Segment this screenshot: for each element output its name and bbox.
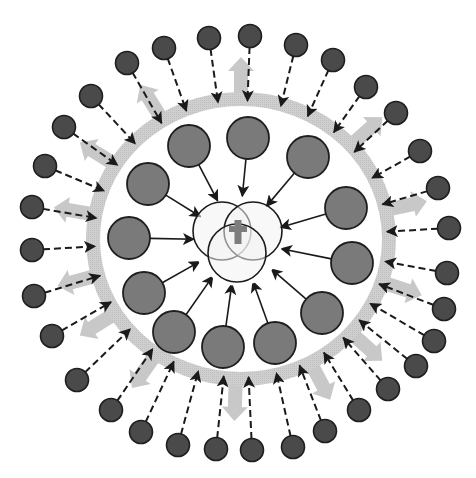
solid-arrow <box>186 276 213 315</box>
dashed-arrow <box>181 371 198 434</box>
middle-circle <box>325 187 367 229</box>
dashed-arrow <box>370 303 424 335</box>
outer-dot <box>21 196 44 219</box>
outer-dot <box>34 155 57 178</box>
outer-dot <box>239 25 262 48</box>
outer-dot <box>427 177 450 200</box>
solid-arrow <box>280 214 326 228</box>
dashed-arrow <box>168 58 187 111</box>
outer-dot <box>322 49 345 72</box>
outer-dot <box>436 262 459 285</box>
outer-dot <box>241 439 264 462</box>
outer-dot <box>53 116 76 139</box>
outer-dot <box>23 285 46 308</box>
solid-arrow <box>242 159 246 196</box>
outer-dot <box>385 102 408 125</box>
middle-circle <box>254 322 296 364</box>
middle-circle <box>202 326 244 368</box>
middle-circle <box>168 125 210 167</box>
middle-circle <box>108 217 150 259</box>
outer-dot <box>167 434 190 457</box>
outer-dot <box>285 34 308 57</box>
solid-arrow <box>150 238 194 239</box>
outer-dot <box>198 27 221 50</box>
dashed-arrow <box>98 104 135 144</box>
diagram-canvas <box>0 0 476 478</box>
dashed-arrow <box>276 373 290 436</box>
outer-dot <box>314 420 337 443</box>
outer-dot <box>377 378 400 401</box>
outer-dot <box>80 85 103 108</box>
middle-circle <box>123 272 165 314</box>
solid-arrow <box>162 262 199 283</box>
outer-dot <box>355 76 378 99</box>
outer-dot <box>41 325 64 348</box>
outer-dot <box>100 399 123 422</box>
outer-dot <box>423 330 446 353</box>
middle-circle <box>153 311 195 353</box>
outer-dot <box>348 399 371 422</box>
outer-dot <box>433 298 456 321</box>
solid-arrow <box>166 195 201 217</box>
outer-dot <box>21 239 44 262</box>
influence-diagram <box>0 0 476 478</box>
solid-arrow <box>281 249 331 259</box>
solid-arrow <box>271 269 306 299</box>
solid-arrow <box>199 165 218 201</box>
outer-dot <box>409 140 432 163</box>
middle-circle <box>331 242 373 284</box>
outer-dot <box>405 355 428 378</box>
central-venn-layer <box>193 198 282 286</box>
outer-dot <box>282 436 305 459</box>
solid-arrow <box>253 281 268 323</box>
dashed-arrow <box>372 156 410 178</box>
dashed-arrow <box>55 170 104 191</box>
outer-dot <box>153 37 176 60</box>
middle-circle <box>227 117 269 159</box>
outer-dot <box>130 421 153 444</box>
solid-arrow <box>226 284 232 327</box>
outer-dot <box>205 438 228 461</box>
middle-circle <box>301 292 343 334</box>
outer-dot <box>116 52 139 75</box>
outer-dot <box>66 369 89 392</box>
outer-dot <box>438 217 461 240</box>
dashed-arrow <box>334 96 360 132</box>
middle-circle <box>127 163 169 205</box>
dashed-arrow <box>249 377 252 439</box>
cross-horizontal <box>229 226 247 232</box>
middle-circle <box>287 136 329 178</box>
solid-arrow <box>266 173 294 206</box>
